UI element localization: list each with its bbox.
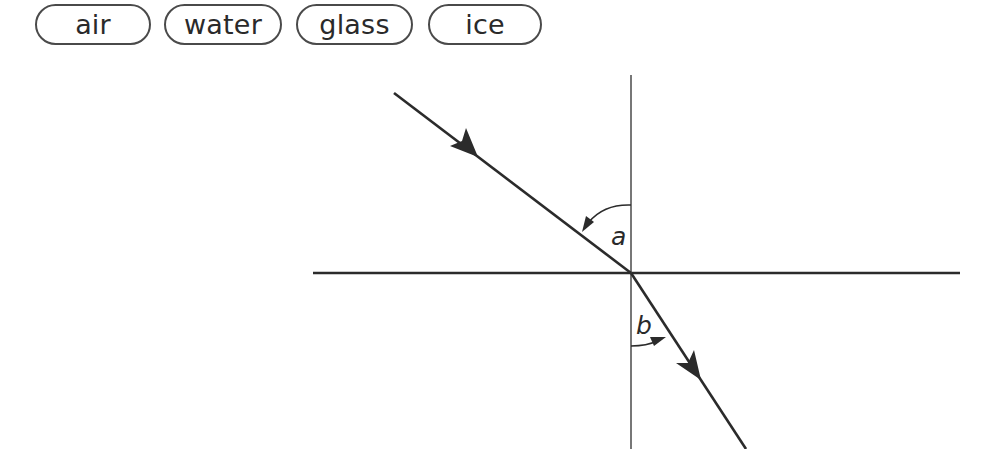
refracted-ray-arrowhead bbox=[676, 350, 701, 380]
angle-a-arc bbox=[589, 205, 631, 222]
refraction-diagram: a b bbox=[0, 0, 987, 449]
incident-ray bbox=[394, 93, 631, 273]
incident-ray-arrowhead bbox=[450, 128, 478, 157]
angle-a-label: a bbox=[611, 222, 626, 251]
angle-b-arrowhead bbox=[650, 337, 666, 346]
angle-b-label: b bbox=[636, 311, 652, 340]
refracted-ray bbox=[631, 273, 746, 449]
